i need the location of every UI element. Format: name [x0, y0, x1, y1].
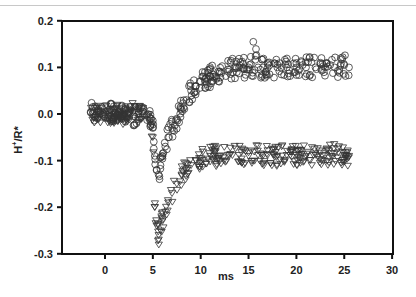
- svg-text:H+/R*: H+/R*: [11, 126, 24, 154]
- x-axis-title: ms: [218, 270, 234, 282]
- x-tick-label: 20: [290, 264, 302, 276]
- x-tick-label: 5: [150, 264, 156, 276]
- y-axis-ticks: 0.20.10.0-0.1-0.2-0.3: [34, 15, 62, 260]
- y-axis-title-rest: /R*: [12, 126, 24, 142]
- y-axis-title-main: H: [12, 146, 24, 154]
- x-tick-label: 25: [338, 264, 350, 276]
- x-tick-label: 0: [102, 264, 108, 276]
- data-points: [87, 38, 352, 248]
- y-tick-label: -0.3: [34, 248, 53, 260]
- x-axis-ticks: 051015202530: [102, 254, 398, 276]
- x-tick-label: 10: [195, 264, 207, 276]
- y-tick-label: -0.2: [34, 201, 53, 213]
- y-tick-label: -0.1: [34, 155, 53, 167]
- y-tick-label: 0.0: [38, 108, 53, 120]
- y-tick-label: 0.1: [38, 61, 53, 73]
- x-tick-label: 30: [386, 264, 398, 276]
- y-axis-title: H+/R*: [11, 126, 24, 154]
- scatter-chart: 051015202530 0.20.10.0-0.1-0.2-0.3 ms H+…: [0, 0, 416, 297]
- y-tick-label: 0.2: [38, 15, 53, 27]
- x-tick-label: 15: [242, 264, 254, 276]
